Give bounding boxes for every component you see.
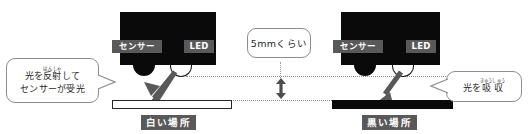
absorption-arrow-right <box>368 70 412 104</box>
ruby-furigana: はんしゃ <box>43 66 62 71</box>
black-surface <box>332 100 453 109</box>
callout-gap-label: 5mmくらい <box>251 36 307 50</box>
ruby-hansha: 反射はんしゃ <box>43 71 62 81</box>
led-label-right: LED <box>406 40 436 53</box>
callout-gap: 5mmくらい <box>247 28 311 58</box>
caption-white-surface: 白い場所 <box>141 115 196 130</box>
guide-line-vertical <box>280 62 281 78</box>
callout-absorption-tail <box>427 78 449 94</box>
sensor-label-right: センサー <box>333 40 383 53</box>
sensor-device-left <box>120 12 216 65</box>
callout-reflection-line2: センサーが受光 <box>20 83 85 96</box>
callout-reflection-line1: 光を反射はんしゃして <box>25 66 81 83</box>
callout-reflection-tail <box>97 74 119 90</box>
callout-reflection: 光を反射はんしゃして センサーが受光 <box>6 58 99 103</box>
sensor-label-left: センサー <box>112 40 162 53</box>
guide-line-top <box>186 76 466 77</box>
callout-absorption: 光を吸収きゅうしゅう <box>446 71 522 102</box>
callout-text-fragment: して <box>62 71 81 81</box>
led-label-left: LED <box>184 40 214 53</box>
sensor-device-right <box>341 12 440 65</box>
white-surface <box>112 100 232 109</box>
ruby-kyushu: 吸収きゅうしゅう <box>482 83 506 93</box>
gap-double-arrow <box>275 78 287 99</box>
diagram-canvas: センサー LED 白い場所 光を反射はんしゃして センサーが受光 5mmくらい … <box>0 0 529 134</box>
callout-text-fragment: 光を <box>25 71 44 81</box>
ruby-base: 吸収 <box>480 83 505 93</box>
callout-absorption-line: 光を吸収きゅうしゅう <box>463 78 505 95</box>
ruby-furigana: きゅうしゅう <box>480 78 505 83</box>
caption-black-surface: 黒い場所 <box>362 115 417 130</box>
callout-text-fragment: 光を <box>463 83 482 93</box>
ruby-base: 反射 <box>43 71 62 81</box>
